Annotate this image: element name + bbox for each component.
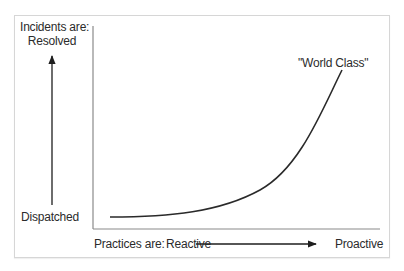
curve-annotation: "World Class": [298, 56, 368, 70]
growth-curve: [110, 70, 342, 217]
x-axis-high-label: Proactive: [335, 237, 383, 251]
y-axis-title-line2: Resolved: [20, 34, 84, 48]
y-axis-title: Incidents are: Resolved: [20, 20, 84, 48]
y-axis-title-line1: Incidents are:: [20, 20, 84, 34]
x-axis-title: Practices are:: [94, 237, 165, 251]
y-axis-low-label: Dispatched: [21, 210, 79, 224]
x-axis-low-label: Reactive: [166, 237, 211, 251]
